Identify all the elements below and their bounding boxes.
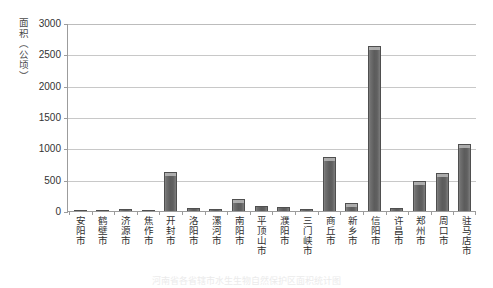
bar[interactable] bbox=[209, 209, 222, 211]
bar[interactable] bbox=[300, 209, 313, 212]
bar[interactable] bbox=[96, 210, 109, 212]
y-axis-tick-label: 3000 bbox=[39, 19, 61, 29]
bar-slot bbox=[250, 24, 273, 211]
x-axis-tick bbox=[205, 211, 206, 215]
x-axis-label: 漯河市 bbox=[210, 216, 221, 268]
x-axis-label-slot: 濮阳市 bbox=[272, 216, 295, 268]
bar[interactable] bbox=[413, 181, 426, 211]
bar-top-highlight bbox=[437, 174, 448, 177]
x-axis-label-slot: 三门峡市 bbox=[295, 216, 318, 268]
y-axis-tick bbox=[64, 87, 68, 88]
bar[interactable] bbox=[368, 46, 381, 211]
bar-slot bbox=[431, 24, 454, 211]
y-axis-tick bbox=[64, 118, 68, 119]
x-axis-tick bbox=[318, 211, 319, 215]
x-axis-label-slot: 驻马店市 bbox=[454, 216, 477, 268]
x-axis-label: 濮阳市 bbox=[279, 216, 290, 268]
x-axis-label-slot: 漯河市 bbox=[204, 216, 227, 268]
bar-slot bbox=[453, 24, 476, 211]
bar-top-highlight bbox=[233, 200, 244, 203]
bar-slot bbox=[363, 24, 386, 211]
x-axis-label: 信阳市 bbox=[369, 216, 380, 268]
x-axis-tick bbox=[137, 211, 138, 215]
x-axis-tick bbox=[182, 211, 183, 215]
bar[interactable] bbox=[164, 172, 177, 211]
x-axis-label: 洛阳市 bbox=[188, 216, 199, 268]
bar[interactable] bbox=[277, 207, 290, 211]
x-axis-label-slot: 商丘市 bbox=[318, 216, 341, 268]
bar[interactable] bbox=[458, 144, 471, 211]
bar-slot bbox=[408, 24, 431, 211]
bar-slot bbox=[318, 24, 341, 211]
y-axis-tick bbox=[64, 181, 68, 182]
y-axis-tick bbox=[64, 24, 68, 25]
bar[interactable] bbox=[74, 210, 87, 212]
x-axis-label-slot: 南阳市 bbox=[227, 216, 250, 268]
x-axis-tick bbox=[408, 211, 409, 215]
bar[interactable] bbox=[345, 203, 358, 211]
bar-slot bbox=[92, 24, 115, 211]
x-axis-label: 平顶山市 bbox=[256, 216, 267, 268]
x-axis-tick bbox=[92, 211, 93, 215]
bar[interactable] bbox=[390, 208, 403, 211]
y-axis-title: 面积（公顷） bbox=[14, 18, 32, 128]
bar-slot bbox=[340, 24, 363, 211]
y-axis-title-label: 面积（公顷） bbox=[18, 18, 29, 81]
x-axis-label-slot: 焦作市 bbox=[136, 216, 159, 268]
bar[interactable] bbox=[142, 210, 155, 212]
x-axis-tick bbox=[386, 211, 387, 215]
x-axis-label-slot: 新乡市 bbox=[341, 216, 364, 268]
x-axis-label: 南阳市 bbox=[233, 216, 244, 268]
plot-area: 300025002000150010005000 bbox=[67, 24, 476, 212]
y-axis-tick bbox=[64, 212, 68, 213]
x-axis-tick bbox=[69, 211, 70, 215]
x-axis-label: 周口市 bbox=[438, 216, 449, 268]
x-axis-tick bbox=[453, 211, 454, 215]
bar-top-highlight bbox=[369, 47, 380, 50]
x-axis-tick bbox=[295, 211, 296, 215]
x-axis-label-slot: 开封市 bbox=[159, 216, 182, 268]
bar[interactable] bbox=[436, 173, 449, 211]
x-axis-label: 驻马店市 bbox=[460, 216, 471, 268]
x-axis-label-slot: 平顶山市 bbox=[250, 216, 273, 268]
bar[interactable] bbox=[119, 209, 132, 211]
figure-caption: 河南省各省辖市水生生物自然保护区面积统计图 bbox=[0, 276, 493, 285]
bar-slot bbox=[272, 24, 295, 211]
bar[interactable] bbox=[187, 208, 200, 211]
y-axis-tick bbox=[64, 149, 68, 150]
x-axis-label: 许昌市 bbox=[392, 216, 403, 268]
bar[interactable] bbox=[255, 206, 268, 211]
bar-top-highlight bbox=[414, 182, 425, 185]
x-axis-label-slot: 鹤壁市 bbox=[91, 216, 114, 268]
x-axis-label: 开封市 bbox=[165, 216, 176, 268]
bar[interactable] bbox=[323, 157, 336, 211]
bar-top-highlight bbox=[165, 173, 176, 176]
bar-slot bbox=[227, 24, 250, 211]
x-axis-label-slot: 信阳市 bbox=[363, 216, 386, 268]
bar-top-highlight bbox=[324, 158, 335, 161]
bar-slot bbox=[159, 24, 182, 211]
x-axis-label: 三门峡市 bbox=[301, 216, 312, 268]
x-axis-tick bbox=[227, 211, 228, 215]
bar-slot bbox=[295, 24, 318, 211]
bar[interactable] bbox=[232, 199, 245, 211]
x-axis-tick bbox=[250, 211, 251, 215]
x-axis-label: 新乡市 bbox=[347, 216, 358, 268]
y-axis-tick-label: 2500 bbox=[39, 50, 61, 60]
x-axis-label-slot: 济源市 bbox=[113, 216, 136, 268]
bar-top-highlight bbox=[346, 204, 357, 207]
y-axis-tick-label: 1000 bbox=[39, 144, 61, 154]
bar-slot bbox=[182, 24, 205, 211]
bar-chart-figure: 面积（公顷） 300025002000150010005000 安阳市鹤壁市济源… bbox=[0, 0, 493, 288]
x-axis-tick bbox=[475, 211, 476, 215]
x-axis-labels: 安阳市鹤壁市济源市焦作市开封市洛阳市漯河市南阳市平顶山市濮阳市三门峡市商丘市新乡… bbox=[68, 216, 477, 268]
x-axis-label: 焦作市 bbox=[142, 216, 153, 268]
x-axis-tick bbox=[363, 211, 364, 215]
y-axis-tick bbox=[64, 55, 68, 56]
x-axis-label: 商丘市 bbox=[324, 216, 335, 268]
bar-slot bbox=[69, 24, 92, 211]
y-axis-tick-label: 1500 bbox=[39, 113, 61, 123]
bar-top-highlight bbox=[459, 145, 470, 148]
y-axis-tick-label: 500 bbox=[44, 176, 61, 186]
x-axis-label-slot: 洛阳市 bbox=[182, 216, 205, 268]
